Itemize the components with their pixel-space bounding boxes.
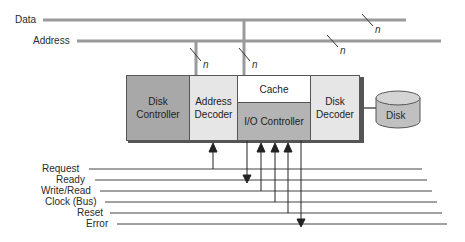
address-decoder-label: Address Decoder bbox=[191, 95, 237, 121]
cache-block: Cache bbox=[237, 75, 311, 103]
disk-controller-label: Disk Controller bbox=[133, 95, 183, 121]
arrow-down-icon bbox=[297, 219, 305, 227]
disk-controller-block: Disk Controller bbox=[126, 75, 190, 141]
address-decoder-block: Address Decoder bbox=[189, 75, 238, 141]
bus-width-label: n bbox=[252, 59, 258, 70]
arrow-up-icon bbox=[209, 143, 217, 152]
cache-label: Cache bbox=[260, 83, 289, 96]
io-controller-block: I/O Controller bbox=[237, 102, 311, 141]
bus-width-label: n bbox=[375, 24, 381, 35]
arrow-up-icon bbox=[257, 143, 265, 152]
arrow-down-icon bbox=[243, 175, 251, 183]
bus-width-label: n bbox=[340, 45, 346, 56]
disk-decoder-block: Disk Decoder bbox=[310, 75, 360, 141]
arrow-up-icon bbox=[284, 143, 292, 152]
disk-decoder-label: Disk Decoder bbox=[313, 95, 357, 121]
data-bus-label: Data bbox=[15, 14, 36, 26]
signal-lines bbox=[89, 169, 447, 224]
signal-label-error: Error bbox=[86, 218, 108, 230]
io-controller-label: I/O Controller bbox=[244, 115, 303, 128]
disk-label: Disk bbox=[386, 110, 405, 122]
bus-width-label: n bbox=[203, 59, 209, 70]
address-bus-label: Address bbox=[33, 35, 70, 47]
arrow-up-icon bbox=[271, 143, 279, 152]
